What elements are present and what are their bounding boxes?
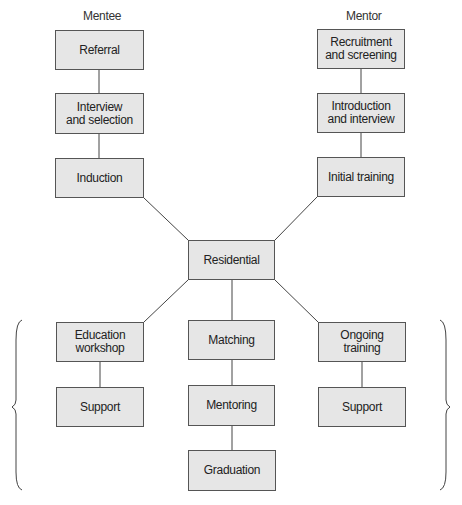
recruitment-screening-box: Recruitment and screening — [317, 29, 405, 69]
interview-selection-box: Interview and selection — [55, 93, 144, 134]
graduation-box: Graduation — [188, 450, 276, 491]
right-brace — [440, 320, 450, 490]
referral-box: Referral — [55, 30, 144, 70]
matching-box: Matching — [188, 320, 275, 360]
ongoing-training-box: Ongoing training — [318, 322, 406, 362]
residential-box: Residential — [188, 240, 275, 280]
induction-box: Induction — [55, 158, 144, 198]
left-brace — [12, 320, 22, 490]
support-left-box: Support — [56, 387, 144, 427]
initial-training-box: Initial training — [317, 157, 405, 197]
mentor-header: Mentor — [346, 9, 382, 23]
education-workshop-box: Education workshop — [56, 322, 144, 362]
introduction-interview-box: Introduction and interview — [317, 93, 405, 133]
mentee-header: Mentee — [83, 9, 121, 23]
mentoring-box: Mentoring — [188, 385, 275, 426]
support-right-box: Support — [318, 387, 406, 427]
